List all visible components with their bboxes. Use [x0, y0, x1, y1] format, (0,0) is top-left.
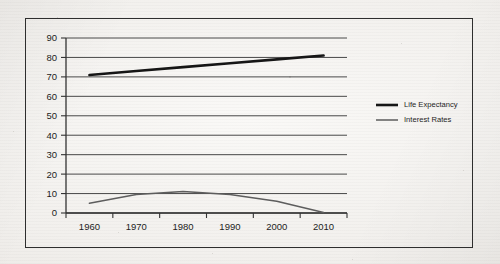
y-axis-label: 40	[46, 130, 57, 141]
series-line-interest-rates	[89, 192, 323, 213]
line-chart: 0102030405060708090196019701980199020002…	[0, 0, 500, 264]
y-axis-label: 70	[46, 71, 57, 82]
legend-label: Life Expectancy	[404, 100, 458, 109]
x-axis-label: 1960	[79, 221, 100, 232]
x-axis-group: 196019701980199020002010	[66, 213, 347, 232]
y-axis-label: 50	[46, 110, 57, 121]
y-axis-label: 0	[52, 207, 57, 218]
y-axis-label: 10	[46, 188, 57, 199]
gridlines-group: 0102030405060708090	[46, 32, 347, 218]
x-axis-label: 1970	[126, 221, 147, 232]
x-axis-label: 1980	[173, 221, 194, 232]
y-axis-label: 20	[46, 169, 57, 180]
x-axis-label: 1990	[219, 221, 240, 232]
y-axis-label: 60	[46, 91, 57, 102]
y-axis-label: 30	[46, 149, 57, 160]
legend-label: Interest Rates	[404, 115, 451, 124]
y-axis-label: 90	[46, 32, 57, 43]
series-line-life-expectancy	[89, 56, 323, 75]
series-group	[89, 56, 323, 213]
chart-legend: Life ExpectancyInterest Rates	[376, 100, 458, 124]
x-axis-label: 2010	[313, 221, 334, 232]
y-axis-label: 80	[46, 52, 57, 63]
x-axis-label: 2000	[266, 221, 287, 232]
